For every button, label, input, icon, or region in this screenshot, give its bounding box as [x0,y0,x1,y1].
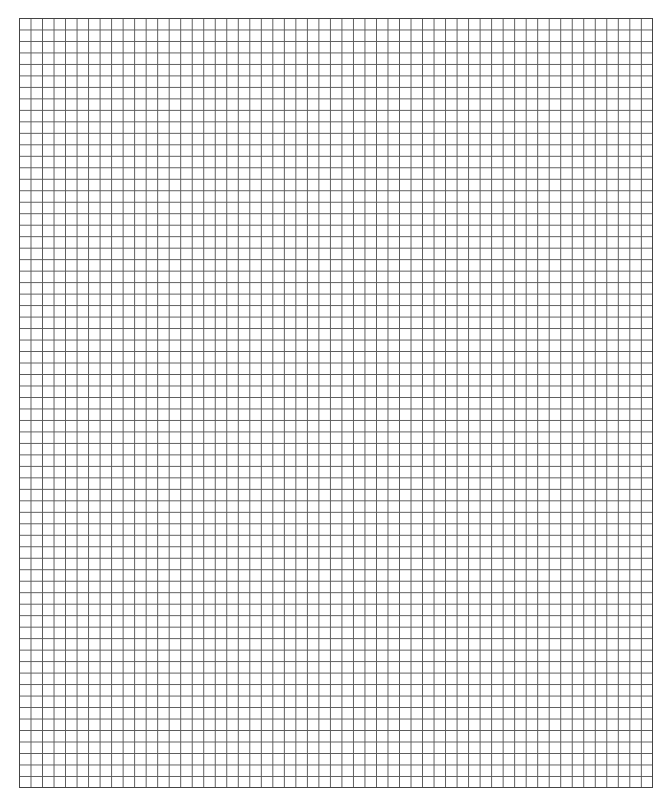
graph-paper-grid [19,18,653,788]
page-title-clipped [0,0,670,4]
